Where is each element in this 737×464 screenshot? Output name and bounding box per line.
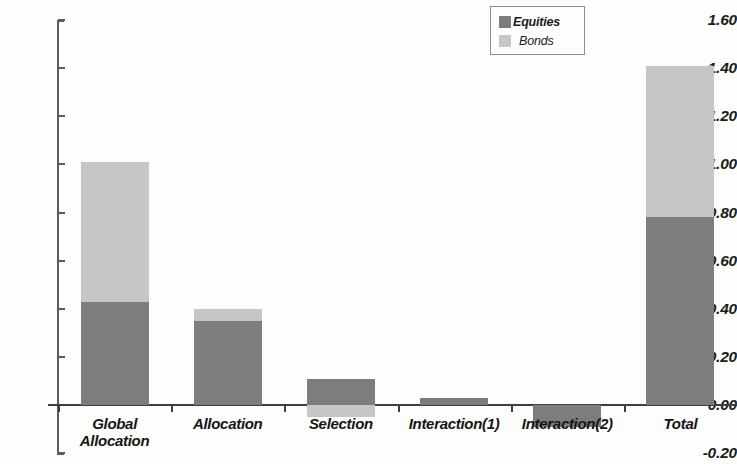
- legend-item-bonds: Bonds: [499, 32, 584, 49]
- bar-segment-bonds[interactable]: [81, 162, 149, 302]
- x-axis-label: Selection: [284, 416, 397, 433]
- bar-group[interactable]: [533, 0, 601, 464]
- bar-segment-equities[interactable]: [420, 398, 488, 405]
- bar-group[interactable]: [194, 0, 262, 464]
- bar-group[interactable]: [646, 0, 714, 464]
- bar-group[interactable]: [81, 0, 149, 464]
- legend-swatch-bonds-icon: [499, 35, 511, 47]
- bar-segment-equities[interactable]: [646, 217, 714, 405]
- x-axis-label: Interaction(2): [511, 416, 624, 433]
- x-axis-label: Global Allocation: [58, 416, 171, 450]
- legend-label-bonds: Bonds: [519, 34, 553, 48]
- bar-segment-equities[interactable]: [81, 302, 149, 405]
- x-axis-label: Interaction(1): [398, 416, 511, 433]
- stacked-bar-chart: 1.601.401.201.000.800.600.400.200.00-0.2…: [0, 0, 737, 464]
- plot-area: [58, 0, 737, 464]
- legend-item-equities: Equities: [499, 13, 584, 30]
- bar-segment-equities[interactable]: [194, 321, 262, 405]
- bar-segment-equities[interactable]: [307, 379, 375, 405]
- bar-group[interactable]: [420, 0, 488, 464]
- bar-segment-bonds[interactable]: [646, 66, 714, 218]
- x-axis-label: Allocation: [171, 416, 284, 433]
- x-axis-label: Total: [624, 416, 737, 433]
- legend-swatch-equities-icon: [499, 16, 511, 28]
- bar-segment-bonds[interactable]: [194, 309, 262, 321]
- legend: Equities Bonds: [490, 6, 585, 55]
- legend-label-equities: Equities: [513, 15, 560, 29]
- bar-group[interactable]: [307, 0, 375, 464]
